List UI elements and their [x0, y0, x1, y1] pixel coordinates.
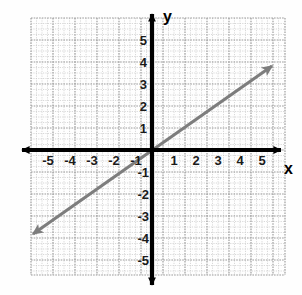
y-tick-label-neg5: -5 [137, 253, 149, 268]
x-tick-label-pos3: 3 [214, 153, 221, 168]
y-tick-label-pos4: 4 [140, 55, 148, 70]
y-tick-label-neg4: -4 [137, 231, 149, 246]
y-tick-label-pos1: 1 [140, 121, 147, 136]
x-tick-label-pos1: 1 [170, 153, 177, 168]
x-tick-label-pos4: 4 [236, 153, 244, 168]
x-axis-label: x [284, 160, 293, 177]
x-tick-label-pos2: 2 [192, 153, 199, 168]
x-tick-label-neg2: -2 [108, 153, 120, 168]
y-tick-label-neg1: -1 [137, 165, 149, 180]
y-tick-label-neg2: -2 [137, 187, 149, 202]
y-tick-label-pos5: 5 [140, 33, 147, 48]
y-tick-label-pos2: 2 [140, 99, 147, 114]
y-axis-label: y [163, 8, 172, 25]
x-tick-label-neg3: -3 [86, 153, 98, 168]
x-tick-label-pos5: 5 [258, 153, 265, 168]
y-tick-label-pos3: 3 [140, 77, 147, 92]
x-tick-label-neg5: -5 [42, 153, 54, 168]
graph-container: -5 -4 -3 -2 -1 1 2 3 4 5 5 4 3 2 1 -1 -2… [0, 0, 302, 295]
x-tick-label-neg4: -4 [64, 153, 76, 168]
y-tick-label-neg3: -3 [137, 209, 149, 224]
coordinate-plane-figure: -5 -4 -3 -2 -1 1 2 3 4 5 5 4 3 2 1 -1 -2… [0, 0, 302, 295]
